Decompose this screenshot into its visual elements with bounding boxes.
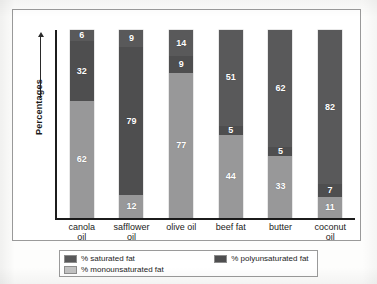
bar-segment: 14 bbox=[169, 30, 193, 56]
x-axis-line bbox=[55, 218, 355, 220]
x-axis-tick-label: coconutoil bbox=[305, 222, 355, 243]
bar-segment-value: 62 bbox=[275, 84, 285, 93]
bar-segment: 62 bbox=[268, 30, 292, 147]
legend-entry-polyunsaturated: % polyunsaturated fat bbox=[214, 253, 313, 264]
bar-segment: 44 bbox=[219, 135, 243, 218]
legend-entry-monounsaturated: % monounsaturated fat bbox=[64, 264, 216, 275]
bar-segment: 62 bbox=[70, 101, 94, 218]
bar-segment-value: 6 bbox=[79, 31, 84, 40]
x-axis-tick-label: beef fat bbox=[206, 222, 256, 243]
y-axis-title: Percentages bbox=[34, 49, 44, 165]
bar-stack: 82711 bbox=[318, 30, 342, 218]
legend-label-monounsaturated: % monounsaturated fat bbox=[81, 266, 164, 274]
bar-segment: 82 bbox=[318, 30, 342, 184]
x-axis-tick-label: butter bbox=[256, 222, 306, 243]
bar-segment-value: 82 bbox=[325, 103, 335, 112]
plot-area: 632629791214977515446253382711 bbox=[55, 30, 355, 220]
bar-stack: 97912 bbox=[119, 30, 143, 218]
legend-swatch-saturated-icon bbox=[64, 255, 77, 263]
bar-group: 51544 bbox=[208, 30, 254, 218]
bar-segment: 11 bbox=[318, 197, 342, 218]
bar-segment-value: 9 bbox=[129, 34, 134, 43]
bar-segment-value: 14 bbox=[176, 39, 186, 48]
bar-segment-value: 9 bbox=[179, 60, 184, 69]
bar-stack: 14977 bbox=[169, 30, 193, 218]
bar-segment-value: 77 bbox=[176, 141, 186, 150]
legend-entry-saturated: % saturated fat bbox=[64, 253, 214, 264]
bar-segment-value: 32 bbox=[77, 67, 87, 76]
x-axis-tick-label: canolaoil bbox=[57, 222, 107, 243]
bar-segment: 79 bbox=[119, 47, 143, 196]
x-axis-tick-label-line1: olive oil bbox=[156, 222, 206, 232]
bar-segment-value: 33 bbox=[275, 182, 285, 191]
x-axis-tick-label-line1: coconut bbox=[305, 222, 355, 232]
chart-frame: Percentages 6326297912149775154462533827… bbox=[12, 9, 361, 241]
bar-group: 14977 bbox=[158, 30, 204, 218]
legend-swatch-monounsaturated-icon bbox=[64, 266, 77, 274]
bar-stack: 63262 bbox=[70, 30, 94, 218]
bar-segment-value: 51 bbox=[226, 73, 236, 82]
bar-segment: 32 bbox=[70, 41, 94, 101]
bar-group: 62533 bbox=[257, 30, 303, 218]
legend-swatch-polyunsaturated-icon bbox=[214, 255, 227, 263]
bar-segment-value: 62 bbox=[77, 155, 87, 164]
bar-segment-value: 79 bbox=[126, 117, 136, 126]
bar-segment: 51 bbox=[219, 30, 243, 126]
bar-segment: 33 bbox=[268, 156, 292, 218]
legend-label-polyunsaturated: % polyunsaturated fat bbox=[231, 255, 308, 263]
bar-segment: 12 bbox=[119, 195, 143, 218]
bar-segment-value: 5 bbox=[278, 147, 283, 156]
x-axis-tick-label-line2: oil bbox=[57, 232, 107, 242]
x-axis-tick-label-line1: butter bbox=[256, 222, 306, 232]
bar-segment-value: 12 bbox=[126, 202, 136, 211]
bar-segment-value: 7 bbox=[328, 186, 333, 195]
bar-segment: 9 bbox=[169, 56, 193, 73]
bar-segment: 5 bbox=[219, 126, 243, 135]
bars-container: 632629791214977515446253382711 bbox=[57, 30, 355, 218]
bar-segment-value: 44 bbox=[226, 172, 236, 181]
y-axis-label-block: Percentages bbox=[27, 24, 49, 220]
legend-label-saturated: % saturated fat bbox=[81, 255, 135, 263]
bar-stack: 51544 bbox=[219, 30, 243, 218]
bar-stack: 62533 bbox=[268, 30, 292, 218]
bar-group: 63262 bbox=[59, 30, 105, 218]
bar-segment: 7 bbox=[318, 184, 342, 197]
bar-segment: 5 bbox=[268, 147, 292, 156]
bar-segment: 9 bbox=[119, 30, 143, 47]
legend-row-2: % monounsaturated fat bbox=[64, 264, 313, 275]
x-axis-tick-label-line1: beef fat bbox=[206, 222, 256, 232]
bar-segment-value: 11 bbox=[325, 203, 335, 212]
bar-segment-value: 5 bbox=[228, 126, 233, 135]
stacked-bar-chart-figure: Percentages 6326297912149775154462533827… bbox=[0, 0, 377, 284]
x-axis-tick-label: saffloweroil bbox=[107, 222, 157, 243]
bar-group: 82711 bbox=[307, 30, 353, 218]
x-axis-tick-label: olive oil bbox=[156, 222, 206, 243]
bar-group: 97912 bbox=[108, 30, 154, 218]
x-axis-tick-label-line1: canola bbox=[57, 222, 107, 232]
bar-segment: 77 bbox=[169, 73, 193, 218]
x-axis-tick-label-line2: oil bbox=[107, 232, 157, 242]
x-axis-tick-label-line1: safflower bbox=[107, 222, 157, 232]
x-axis-tick-labels: canolaoilsaffloweroilolive oilbeef fatbu… bbox=[57, 222, 355, 243]
bar-segment: 6 bbox=[70, 30, 94, 41]
x-axis-tick-label-line2: oil bbox=[305, 232, 355, 242]
legend: % saturated fat % polyunsaturated fat % … bbox=[59, 250, 318, 277]
legend-row-1: % saturated fat % polyunsaturated fat bbox=[64, 253, 313, 264]
